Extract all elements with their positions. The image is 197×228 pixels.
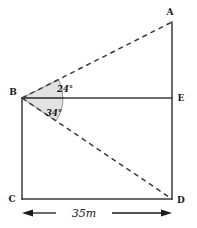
- vertex-label-d: D: [177, 195, 185, 205]
- vertex-label-a: A: [166, 7, 175, 17]
- vertex-label-b: B: [9, 87, 17, 97]
- edge-b-d-dashed: [22, 98, 172, 199]
- angle-label-elevation: 24°: [56, 84, 73, 94]
- vertex-label-e: E: [178, 93, 185, 103]
- dimension-arrow-left: [22, 210, 33, 217]
- dimension-arrow-right: [161, 210, 172, 217]
- geometry-figure: A B C D E 24° 34° 35m: [0, 0, 197, 228]
- diagram-canvas: A B C D E 24° 34° 35m: [0, 0, 197, 228]
- angle-label-depression: 34°: [46, 108, 62, 118]
- dimension-label: 35m: [72, 207, 96, 220]
- vertex-label-c: C: [8, 194, 15, 204]
